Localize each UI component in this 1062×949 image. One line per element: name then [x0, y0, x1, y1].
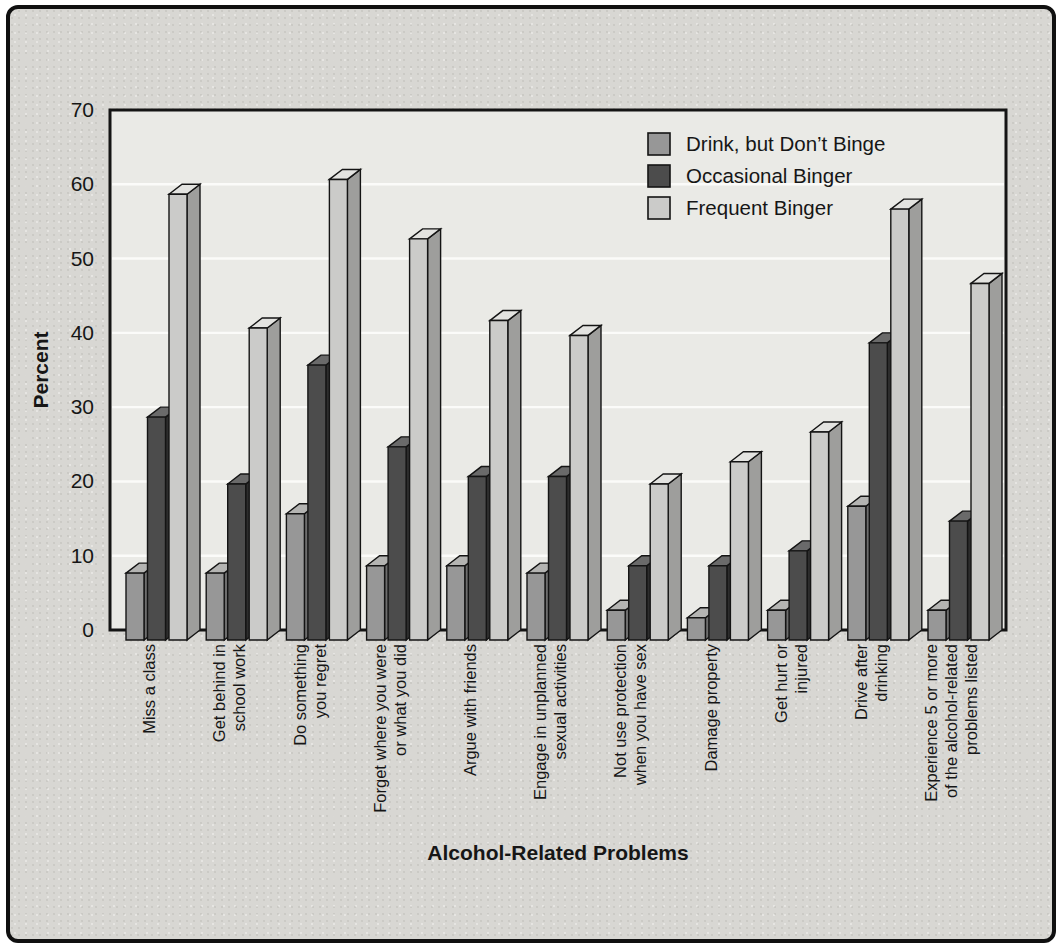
bar-front — [388, 447, 406, 640]
x-category-label: Get hurt or — [772, 644, 790, 723]
bar-front — [367, 566, 385, 640]
bar-front — [950, 521, 968, 640]
bar-frequent-10 — [891, 199, 922, 640]
bar-side — [428, 229, 441, 640]
bar-side — [347, 169, 360, 640]
y-tick-label-50: 50 — [71, 247, 94, 270]
x-category-label: Get behind in — [210, 644, 228, 742]
legend-label-2: Occasional Binger — [686, 164, 853, 187]
x-category-label: Drive after — [852, 644, 870, 721]
bar-front — [971, 283, 989, 640]
bar-front — [650, 484, 668, 640]
bar-frequent-4 — [410, 229, 441, 640]
bar-side — [748, 452, 761, 640]
bar-frequent-8 — [730, 452, 761, 640]
bar-side — [829, 422, 842, 640]
x-category-label: problems listed — [962, 644, 980, 755]
legend-label-1: Drink, but Don’t Binge — [686, 132, 885, 155]
y-axis-title: Percent — [29, 331, 52, 408]
bar-front — [206, 573, 224, 640]
bar-front — [789, 551, 807, 640]
bar-front — [126, 573, 144, 640]
x-category-label: or what you did — [391, 644, 409, 756]
x-category-label: you regret — [311, 644, 329, 719]
bar-front — [928, 610, 946, 640]
bar-frequent-7 — [650, 474, 681, 640]
bar-front — [286, 514, 304, 640]
bar-side — [909, 199, 922, 640]
bar-side — [588, 325, 601, 640]
bar-front — [527, 573, 545, 640]
legend-swatch-3 — [648, 197, 670, 219]
bar-front — [607, 610, 625, 640]
bar-front — [811, 432, 829, 640]
bar-front — [228, 484, 246, 640]
bar-frequent-2 — [249, 318, 280, 640]
bar-front — [848, 506, 866, 640]
bar-front — [869, 343, 887, 640]
bar-front — [308, 365, 326, 640]
bar-frequent-5 — [490, 311, 521, 640]
y-tick-label-20: 20 — [71, 469, 94, 492]
bar-front — [490, 321, 508, 640]
bar-frequent-1 — [169, 184, 200, 640]
x-category-label: Experience 5 or more — [922, 644, 940, 802]
bar-side — [989, 273, 1002, 640]
x-category-label: Miss a class — [140, 644, 158, 734]
x-axis-title: Alcohol-Related Problems — [427, 841, 688, 864]
bar-front — [687, 618, 705, 640]
bar-frequent-6 — [570, 325, 601, 640]
bar-front — [629, 566, 647, 640]
bar-side — [668, 474, 681, 640]
x-category-label: Forget where you were — [371, 644, 389, 813]
bar-frequent-3 — [329, 169, 360, 640]
x-category-label: Not use protection — [611, 644, 629, 778]
bar-front — [249, 328, 267, 640]
bar-front — [468, 477, 486, 640]
x-category-label: Argue with friends — [461, 644, 479, 776]
bar-front — [549, 477, 567, 640]
y-tick-label-60: 60 — [71, 172, 94, 195]
y-tick-label-70: 70 — [71, 98, 94, 121]
x-category-label: sexual activities — [551, 644, 569, 760]
bar-front — [148, 417, 166, 640]
y-tick-label-0: 0 — [82, 618, 94, 641]
bar-side — [187, 184, 200, 640]
x-category-label: Do something — [291, 644, 309, 746]
bar-chart: 010203040506070PercentMiss a classGet be… — [0, 0, 1062, 949]
bar-front — [169, 194, 187, 640]
y-tick-label-10: 10 — [71, 544, 94, 567]
x-category-label: of the alcohol-related — [942, 644, 960, 798]
x-category-label: drinking — [872, 644, 890, 702]
bar-frequent-9 — [811, 422, 842, 640]
x-category-label: Engage in unplanned — [531, 644, 549, 800]
bar-side — [267, 318, 280, 640]
bar-front — [329, 179, 347, 640]
bar-front — [891, 209, 909, 640]
x-category-label: school work — [230, 643, 248, 731]
legend-swatch-2 — [648, 165, 670, 187]
bar-front — [768, 610, 786, 640]
bar-side — [508, 311, 521, 640]
bar-front — [709, 566, 727, 640]
bar-front — [570, 335, 588, 640]
x-category-label: Damage property — [702, 643, 720, 771]
bar-front — [447, 566, 465, 640]
x-category-label: when you have sex — [631, 643, 649, 786]
bar-front — [410, 239, 428, 640]
legend-label-3: Frequent Binger — [686, 196, 833, 219]
y-tick-label-30: 30 — [71, 395, 94, 418]
bar-frequent-11 — [971, 273, 1002, 640]
y-tick-label-40: 40 — [71, 321, 94, 344]
x-category-label: injured — [792, 644, 810, 694]
bar-front — [730, 462, 748, 640]
legend-swatch-1 — [648, 133, 670, 155]
